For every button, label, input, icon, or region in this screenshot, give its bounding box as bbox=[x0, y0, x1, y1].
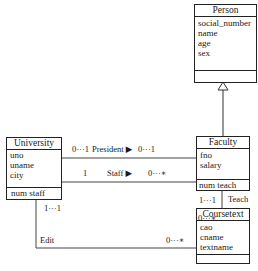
president-mult-right: 0···1 bbox=[138, 145, 155, 154]
person-attr-social-number: social_number bbox=[198, 18, 256, 28]
staff-mult-right: 0···∗ bbox=[148, 169, 167, 178]
university-op-num-staff: num staff bbox=[7, 187, 61, 199]
teach-mult-bottom: 0···∗ bbox=[198, 214, 217, 223]
coursetext-attr-cao: cao bbox=[200, 222, 249, 232]
university-attr-uname: uname bbox=[10, 160, 61, 170]
coursetext-operations bbox=[197, 254, 249, 265]
coursetext-attr-textname: textname bbox=[200, 242, 249, 252]
president-label: President ▶ bbox=[92, 145, 132, 154]
president-mult-left: 0···1 bbox=[72, 145, 89, 154]
person-attr-age: age bbox=[198, 38, 256, 48]
person-attr-sex: sex bbox=[198, 48, 256, 58]
class-university-title: University bbox=[7, 138, 61, 150]
class-person[interactable]: Person social_number name age sex bbox=[194, 4, 257, 83]
person-operations bbox=[195, 70, 256, 84]
university-attr-uno: uno bbox=[10, 150, 61, 160]
staff-label: Staff ▶ bbox=[107, 169, 132, 178]
teach-mult-top: 1···1 bbox=[199, 196, 216, 205]
class-person-title: Person bbox=[195, 5, 256, 17]
person-attr-name: name bbox=[198, 28, 256, 38]
staff-mult-left: 1 bbox=[83, 169, 87, 178]
coursetext-attr-cname: cname bbox=[200, 232, 249, 242]
class-faculty[interactable]: Faculty fno salary num teach bbox=[196, 136, 250, 191]
edit-mult-top: 1···1 bbox=[44, 204, 61, 213]
edit-label: Edit bbox=[40, 236, 54, 245]
faculty-attr-salary: salary bbox=[200, 160, 249, 170]
class-university[interactable]: University uno uname city num staff bbox=[6, 137, 62, 200]
university-attr-city: city bbox=[10, 170, 61, 180]
class-faculty-title: Faculty bbox=[197, 137, 249, 149]
edit-mult-right: 0···∗ bbox=[166, 236, 185, 245]
teach-label: Teach bbox=[228, 195, 248, 204]
faculty-attr-fno: fno bbox=[200, 150, 249, 160]
faculty-op-num-teach: num teach bbox=[197, 179, 249, 191]
